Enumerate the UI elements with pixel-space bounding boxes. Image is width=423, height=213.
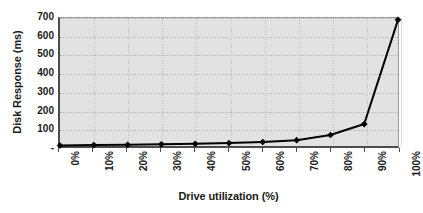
x-tick-mark <box>330 148 331 152</box>
x-axis-title: Drive utilization (%) <box>58 190 399 203</box>
x-tick-mark <box>58 148 59 152</box>
x-tick-mark <box>126 148 127 152</box>
x-tick-label: 100% <box>411 151 423 197</box>
x-tick-mark <box>194 148 195 152</box>
x-tick-mark <box>364 148 365 152</box>
x-tick-mark <box>160 148 161 152</box>
x-tick-mark <box>399 148 400 152</box>
x-tick-mark <box>92 148 93 152</box>
x-tick-mark <box>262 148 263 152</box>
x-tick-mark <box>296 148 297 152</box>
x-tick-mark <box>228 148 229 152</box>
